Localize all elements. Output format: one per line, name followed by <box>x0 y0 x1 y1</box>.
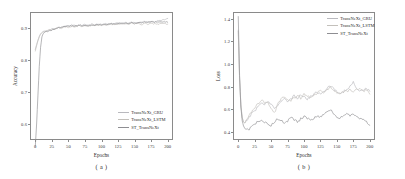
x-tick-label: 75 <box>83 144 88 149</box>
y-axis-title-a: Accuracy <box>12 66 18 86</box>
legend-b: TransNeXt_GRU TransNeXt_LSTM ST_TransNeX… <box>327 15 375 36</box>
x-tick-label: 200 <box>164 144 171 149</box>
legend-line-icon <box>118 112 129 113</box>
x-tick-label: 100 <box>300 144 307 149</box>
x-tick-label: 25 <box>49 144 54 149</box>
legend-item-transnext-gru-b: TransNeXt_GRU <box>327 15 375 21</box>
y-tick-label: 0.7 <box>14 90 27 95</box>
x-tick-mark <box>320 140 321 142</box>
x-tick-mark <box>118 140 119 142</box>
y-tick-label: 1.0 <box>217 62 230 67</box>
legend-line-icon <box>327 18 338 19</box>
y-tick-label: 0.9 <box>14 26 27 31</box>
x-tick-mark <box>238 140 239 142</box>
legend-item-st-transnext-b: ST_TransNeXt <box>327 30 375 36</box>
x-tick-mark <box>353 140 354 142</box>
legend-label: ST_TransNeXt <box>340 31 368 36</box>
x-tick-label: 50 <box>269 144 274 149</box>
x-tick-mark <box>68 140 69 142</box>
figure-container: 0.60.70.80.90255075100125150175200 Epoch… <box>0 0 405 179</box>
legend-item-transnext-lstm-a: TransNeXt_LSTM <box>118 117 166 123</box>
series-line-transnext-lstm <box>238 31 369 123</box>
legend-item-transnext-gru-a: TransNeXt_GRU <box>118 109 166 115</box>
x-tick-mark <box>337 140 338 142</box>
y-tick-label: 0.6 <box>14 122 27 127</box>
y-tick-label: 1.2 <box>217 39 230 44</box>
x-tick-mark <box>102 140 103 142</box>
x-axis-title-a: Epochs <box>94 152 109 158</box>
y-tick-mark <box>231 41 233 42</box>
panel-b-loss-chart: 0.40.60.81.01.21.40255075100125150175200… <box>202 0 404 179</box>
x-tick-mark <box>370 140 371 142</box>
x-tick-mark <box>135 140 136 142</box>
x-axis-title-b: Epochs <box>296 152 311 158</box>
legend-line-icon <box>327 33 338 34</box>
series-line-transnext-lstm <box>35 23 167 51</box>
legend-label: TransNeXt_LSTM <box>131 117 165 122</box>
y-tick-label: 0.4 <box>217 130 230 135</box>
x-tick-mark <box>255 140 256 142</box>
legend-label: TransNeXt_LSTM <box>340 23 374 28</box>
y-tick-mark <box>28 60 30 61</box>
x-tick-label: 175 <box>148 144 155 149</box>
x-tick-label: 75 <box>285 144 290 149</box>
y-tick-mark <box>231 64 233 65</box>
x-tick-label: 125 <box>115 144 122 149</box>
x-tick-label: 0 <box>237 144 239 149</box>
x-tick-label: 100 <box>98 144 105 149</box>
x-tick-label: 200 <box>366 144 373 149</box>
x-tick-mark <box>151 140 152 142</box>
y-tick-label: 1.4 <box>217 16 230 21</box>
y-tick-mark <box>231 109 233 110</box>
x-tick-label: 150 <box>131 144 138 149</box>
legend-line-icon <box>327 25 338 26</box>
y-tick-label: 0.8 <box>14 58 27 63</box>
caption-a: ( a ) <box>96 163 108 170</box>
series-line-transnext-gru <box>238 30 369 123</box>
legend-label: TransNeXt_GRU <box>131 110 163 115</box>
y-tick-mark <box>28 124 30 125</box>
x-tick-label: 150 <box>333 144 340 149</box>
legend-label: TransNeXt_GRU <box>340 16 372 21</box>
legend-line-icon <box>118 119 129 120</box>
y-tick-mark <box>231 19 233 20</box>
legend-item-transnext-lstm-b: TransNeXt_LSTM <box>327 23 375 29</box>
x-tick-mark <box>52 140 53 142</box>
y-axis-title-b: Loss <box>215 71 221 81</box>
caption-b: ( b ) <box>298 163 310 170</box>
x-tick-mark <box>304 140 305 142</box>
legend-a: TransNeXt_GRU TransNeXt_LSTM ST_TransNeX… <box>118 109 166 130</box>
series-line-transnext-gru <box>35 18 167 49</box>
legend-line-icon <box>118 127 129 128</box>
x-tick-label: 175 <box>350 144 357 149</box>
x-tick-label: 25 <box>252 144 257 149</box>
x-tick-mark <box>288 140 289 142</box>
x-tick-label: 50 <box>66 144 71 149</box>
y-tick-mark <box>28 28 30 29</box>
legend-item-st-transnext-a: ST_TransNeXt <box>118 124 166 130</box>
y-tick-mark <box>231 132 233 133</box>
y-tick-label: 0.6 <box>217 107 230 112</box>
x-tick-mark <box>85 140 86 142</box>
panel-a-accuracy-chart: 0.60.70.80.90255075100125150175200 Epoch… <box>0 0 202 179</box>
x-tick-label: 0 <box>34 144 36 149</box>
x-tick-mark <box>35 140 36 142</box>
x-tick-mark <box>168 140 169 142</box>
x-tick-label: 125 <box>317 144 324 149</box>
y-tick-mark <box>28 92 30 93</box>
legend-label: ST_TransNeXt <box>131 125 159 130</box>
y-tick-mark <box>231 87 233 88</box>
y-tick-label: 0.8 <box>217 84 230 89</box>
x-tick-mark <box>271 140 272 142</box>
